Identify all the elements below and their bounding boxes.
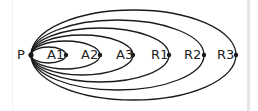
node-label-r1: R1 xyxy=(151,46,168,63)
node-label-a1: A1 xyxy=(47,46,64,63)
node-label-r3: R3 xyxy=(217,46,234,63)
node-label-r2: R2 xyxy=(184,46,201,63)
node-dot-r3 xyxy=(234,53,238,57)
node-dot-p xyxy=(28,52,33,57)
node-dot-r2 xyxy=(202,53,206,57)
node-label-p: P xyxy=(17,46,25,63)
node-label-a3: A3 xyxy=(116,46,133,63)
node-label-a2: A2 xyxy=(81,46,98,63)
node-dot-a1 xyxy=(64,53,68,57)
node-dot-a2 xyxy=(98,53,102,57)
